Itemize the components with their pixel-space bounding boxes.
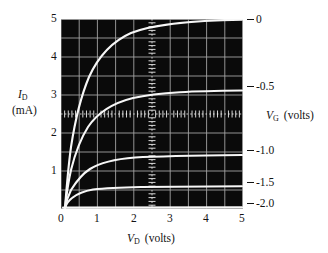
x-axis-title: VD(volts) (127, 233, 175, 246)
right-tick-dash-0 (247, 19, 254, 20)
figure-root: 5 4 3 2 1 0 1 2 3 4 5 0 -0.5 -1.0 -1.5 -… (0, 0, 328, 253)
plot-canvas (61, 19, 243, 209)
right-tick-minus-1p5: -1.5 (247, 177, 274, 189)
y-axis-subscript: D (22, 93, 28, 102)
y-axis-title: ID (18, 89, 28, 102)
x-axis-symbol: V (127, 232, 134, 244)
right-tick-dash-3 (247, 182, 254, 183)
right-tick-2-text: -1.0 (256, 144, 274, 156)
right-tick-0: 0 (247, 14, 262, 26)
x-tick-1: 1 (94, 213, 100, 225)
x-tick-3: 3 (167, 213, 173, 225)
y-tick-2: 2 (51, 127, 57, 139)
right-tick-1-text: -0.5 (256, 80, 274, 92)
x-tick-4: 4 (203, 213, 209, 225)
right-tick-0-text: 0 (256, 13, 262, 25)
x-tick-5: 5 (239, 213, 245, 225)
right-axis-subscript: G (273, 114, 279, 123)
x-axis-units: (volts) (145, 232, 175, 244)
right-tick-minus-2p0: -2.0 (247, 198, 274, 210)
right-tick-dash-1 (247, 86, 254, 87)
y-tick-3: 3 (51, 89, 57, 101)
y-axis-units: (mA) (12, 105, 37, 117)
oscilloscope-screen (61, 19, 243, 209)
y-tick-5: 5 (51, 13, 57, 25)
right-tick-4-text: -2.0 (256, 197, 274, 209)
right-tick-dash-2 (247, 150, 254, 151)
y-tick-4: 4 (51, 51, 57, 63)
right-tick-minus-0p5: -0.5 (247, 81, 274, 93)
right-axis-title: VG(volts) (266, 110, 314, 123)
right-tick-3-text: -1.5 (256, 176, 274, 188)
x-axis-subscript: D (134, 237, 140, 246)
right-axis-symbol: V (266, 109, 273, 121)
x-tick-0: 0 (58, 213, 64, 225)
x-tick-2: 2 (131, 213, 137, 225)
right-tick-minus-1p0: -1.0 (247, 145, 274, 157)
right-tick-dash-4 (247, 203, 254, 204)
right-axis-units: (volts) (284, 109, 314, 121)
y-tick-1: 1 (51, 165, 57, 177)
